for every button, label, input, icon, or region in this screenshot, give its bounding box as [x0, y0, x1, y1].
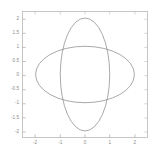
- plot-svg: [0, 0, 159, 157]
- y-tick-label-neg-1-5: -1.5: [2, 116, 19, 121]
- y-tick-label-neg-2: -2: [2, 130, 19, 135]
- y-tick-label-0: 0: [2, 73, 19, 78]
- y-tick-label-neg-1: -1: [2, 101, 19, 106]
- x-tick-label-1: 1: [102, 141, 118, 146]
- figure-canvas: 2 1.5 1 0.5 0 -0.5 -1 -1.5 -2 -2 -1 0 1 …: [0, 0, 159, 157]
- x-tick-label-neg-1: -1: [52, 141, 68, 146]
- y-tick-label-2: 2: [2, 17, 19, 22]
- x-tick-label-neg-2: -2: [27, 141, 43, 146]
- y-tick-label-0-5: 0.5: [2, 59, 19, 64]
- x-tick-label-0: 0: [77, 141, 93, 146]
- y-tick-label-1-5: 1.5: [2, 31, 19, 36]
- x-tick-label-2: 2: [127, 141, 143, 146]
- plot-frame: [23, 12, 148, 138]
- y-tick-label-1: 1: [2, 45, 19, 50]
- y-tick-label-neg-0-5: -0.5: [2, 87, 19, 92]
